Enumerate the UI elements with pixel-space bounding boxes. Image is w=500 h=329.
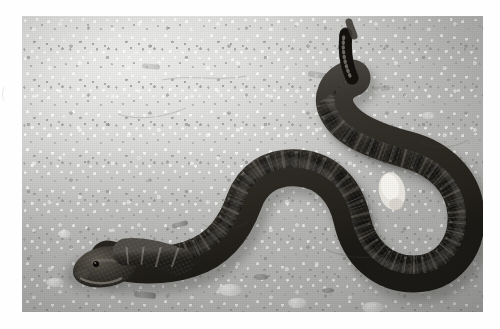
scan-edge-artifact	[2, 86, 12, 102]
photograph	[22, 16, 483, 312]
page-canvas: Black-and-white photograph of a rattlesn…	[0, 0, 500, 329]
snake-rattle	[343, 22, 354, 78]
eye	[93, 261, 99, 267]
snake	[22, 16, 483, 312]
